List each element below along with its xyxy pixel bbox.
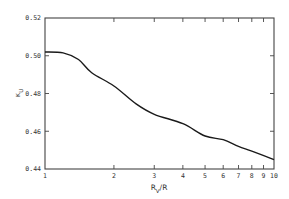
x-tick-label: 5 xyxy=(203,172,207,180)
y-tick-label: 0.50 xyxy=(25,52,41,60)
x-tick-label: 8 xyxy=(250,172,254,180)
data-curve xyxy=(45,52,274,160)
x-tick-labels: 12345678910 xyxy=(43,172,278,180)
y-tick-label: 0.46 xyxy=(25,128,41,136)
x-tick-label: 6 xyxy=(221,172,225,180)
x-tick-label: 7 xyxy=(237,172,241,180)
y-tick-label: 0.52 xyxy=(25,14,41,22)
y-tick-label: 0.48 xyxy=(25,90,41,98)
x-tick-label: 4 xyxy=(181,172,185,180)
y-tick-label: 0.44 xyxy=(25,165,41,173)
x-tick-label: 9 xyxy=(262,172,266,180)
x-axis-title: RV/R xyxy=(151,183,168,194)
x-tick-label: 2 xyxy=(112,172,116,180)
y-axis-title: κU xyxy=(13,89,24,97)
x-tick-label: 3 xyxy=(152,172,156,180)
x-tick-label: 10 xyxy=(270,172,278,180)
y-tick-labels: 0.440.460.480.500.52 xyxy=(25,14,41,173)
line-chart: 12345678910 0.440.460.480.500.52 RV/R κU xyxy=(0,0,289,199)
x-tick-label: 1 xyxy=(43,172,47,180)
